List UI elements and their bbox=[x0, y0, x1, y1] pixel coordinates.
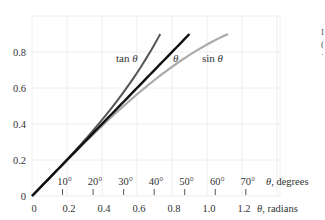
x-tick-label-radians: 1.0 bbox=[202, 203, 215, 214]
x-tick-label-radians: 0.8 bbox=[167, 203, 180, 214]
x-tick-label-degrees: 70° bbox=[240, 176, 255, 187]
y-axis: 00.20.40.60.8 bbox=[13, 47, 27, 202]
tan-label: tan θ bbox=[116, 52, 138, 64]
x-axis-label-degrees: θ, degrees bbox=[266, 176, 309, 187]
x-tick-label-degrees: 40° bbox=[149, 176, 164, 187]
x-tick-label-degrees: 10° bbox=[57, 176, 72, 187]
theta-line bbox=[32, 34, 190, 196]
y-tick-label: 0.2 bbox=[13, 155, 26, 166]
sin-label: sin θ bbox=[202, 52, 224, 64]
y-tick-label: 0.4 bbox=[13, 119, 27, 130]
x-tick-label-degrees: 30° bbox=[118, 176, 133, 187]
x-tick-label-radians: 1.2 bbox=[237, 203, 250, 214]
cropped-caption-fragment: ( bbox=[321, 40, 324, 49]
y-tick-label: 0.6 bbox=[13, 83, 26, 94]
x-tick-label-radians: 0.4 bbox=[97, 203, 111, 214]
tan-curve bbox=[32, 34, 160, 196]
x-tick-label-degrees: 20° bbox=[88, 176, 103, 187]
x-tick-label-degrees: 50° bbox=[179, 176, 194, 187]
y-tick-label: 0 bbox=[21, 191, 26, 202]
cropped-caption-fragment: I bbox=[321, 28, 324, 37]
y-tick-label: 0.8 bbox=[13, 47, 26, 58]
x-tick-label-degrees: 60° bbox=[210, 176, 225, 187]
x-axis-degrees: 10°20°30°40°50°60°70°θ, degrees bbox=[57, 176, 308, 195]
x-tick-label-radians: 0 bbox=[31, 203, 36, 214]
x-tick-label-radians: 0.2 bbox=[62, 203, 75, 214]
small-angle-approximation-chart: 00.20.40.60.8 10°20°30°40°50°60°70°θ, de… bbox=[0, 0, 325, 220]
x-tick-label-radians: 0.6 bbox=[132, 203, 145, 214]
x-axis-radians: 00.20.40.60.81.01.2θ, radians bbox=[31, 203, 297, 214]
cropped-caption-fragment: · bbox=[321, 50, 324, 59]
x-axis-label-radians: θ, radians bbox=[257, 203, 298, 214]
theta-label: θ bbox=[173, 52, 179, 64]
